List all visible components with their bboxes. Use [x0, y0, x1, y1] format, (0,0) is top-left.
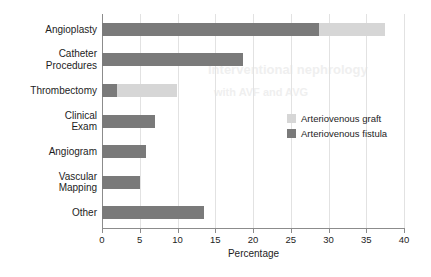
x-axis-tick [253, 229, 254, 233]
x-axis-tick-label: 40 [399, 234, 410, 245]
y-axis-label: Other [72, 207, 97, 219]
bar-chart: Interventional nephrology with AVF and A… [0, 0, 431, 277]
bar-segment [102, 84, 117, 97]
legend-swatch-fistula [287, 129, 296, 138]
x-axis-tick [140, 229, 141, 233]
x-axis-tick-label: 30 [323, 234, 334, 245]
legend-item-arteriovenous-fistula: Arteriovenous fistula [287, 127, 387, 139]
x-axis-tick-label: 10 [172, 234, 183, 245]
bar-segment [102, 176, 140, 189]
bar-group [102, 176, 404, 189]
bar-segment [102, 115, 155, 128]
y-axis-label: Vascular Mapping [59, 171, 97, 194]
gridline [404, 14, 405, 228]
bar-group [102, 145, 404, 158]
bar-group [102, 53, 404, 66]
bar-segment [102, 145, 146, 158]
y-axis-label: Angioplasty [45, 24, 97, 36]
y-axis-label: Catheter Procedures [46, 48, 97, 71]
bar-segment [102, 23, 319, 36]
legend-swatch-graft [287, 114, 296, 123]
bar-segment [102, 53, 243, 66]
x-axis-tick [329, 229, 330, 233]
x-axis-tick-label: 0 [99, 234, 104, 245]
x-axis-line [102, 228, 405, 229]
x-axis-tick-label: 20 [248, 234, 259, 245]
y-axis-label: Thrombectomy [30, 85, 97, 97]
x-axis-title: Percentage [102, 248, 405, 259]
x-axis-tick [178, 229, 179, 233]
bar-segment [319, 23, 385, 36]
bar-group [102, 206, 404, 219]
bar-segment [102, 206, 204, 219]
y-axis-label: Angiogram [49, 146, 97, 158]
x-axis-tick [102, 229, 103, 233]
chart-legend: Arteriovenous graft Arteriovenous fistul… [287, 112, 387, 142]
legend-label-graft: Arteriovenous graft [301, 113, 381, 124]
legend-label-fistula: Arteriovenous fistula [301, 128, 387, 139]
x-axis-tick-label: 35 [361, 234, 372, 245]
x-axis-tick-label: 15 [210, 234, 221, 245]
bar-segment [117, 84, 177, 97]
x-axis-tick-label: 25 [285, 234, 296, 245]
legend-item-arteriovenous-graft: Arteriovenous graft [287, 112, 387, 124]
x-axis-tick [366, 229, 367, 233]
y-axis-label: Clinical Exam [65, 110, 97, 133]
x-axis-tick [291, 229, 292, 233]
x-axis-tick [215, 229, 216, 233]
bar-group [102, 23, 404, 36]
x-axis-tick [404, 229, 405, 233]
x-axis-tick-label: 5 [137, 234, 142, 245]
bar-group [102, 84, 404, 97]
